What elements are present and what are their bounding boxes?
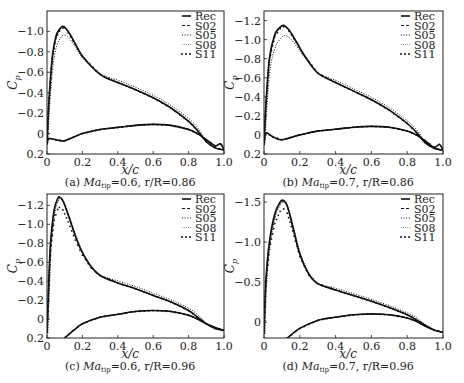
x-tick-label: 0.6 <box>144 156 162 169</box>
x-tick-label: 1.0 <box>434 156 452 169</box>
y-tick-label: 0.2 <box>27 148 45 161</box>
x-axis-label: x/c <box>121 163 139 177</box>
legend: RecS02S05S08S11 <box>181 10 217 61</box>
y-axis-label: Cp <box>223 75 239 89</box>
y-tick-label: 0 <box>37 128 44 141</box>
legend-entry-s11: S11 <box>414 231 436 244</box>
x-tick-label: 0.6 <box>363 340 381 353</box>
x-tick-label: 0 <box>44 340 51 353</box>
y-tick-label: −0.2 <box>17 294 44 307</box>
y-tick-label: 0.2 <box>27 332 45 345</box>
y-tick-label: −0.4 <box>17 275 44 288</box>
x-tick-label: 1.0 <box>434 340 452 353</box>
y-tick-label: −0.5 <box>234 276 261 289</box>
x-tick-label: 0.6 <box>144 340 162 353</box>
x-tick-label: 0.8 <box>180 340 198 353</box>
y-axis-label: Cp <box>223 259 239 273</box>
legend-entry-s11: S11 <box>195 231 217 244</box>
x-tick-label: 0.2 <box>74 340 92 353</box>
x-tick-label: 0.8 <box>398 156 416 169</box>
y-tick-label: −0.8 <box>17 46 44 59</box>
x-axis-label: x/c <box>339 163 357 177</box>
y-axis-label: Cp <box>6 259 22 273</box>
x-tick-label: 0.6 <box>363 156 381 169</box>
x-axis-label: x/c <box>121 347 139 361</box>
legend-entry-s11: S11 <box>414 48 436 61</box>
x-tick-label: 0.8 <box>180 156 198 169</box>
y-tick-label: −1.0 <box>17 218 44 231</box>
y-tick-label: −1.0 <box>234 34 261 47</box>
figure: −1.0−0.8−0.6−0.4−0.200.200.20.40.60.81.0… <box>0 0 464 383</box>
legend: RecS02S05S08S11 <box>400 10 436 61</box>
x-tick-label: 0.8 <box>398 340 416 353</box>
panel-b: −1.2−1.0−0.8−0.6−0.4−0.200.200.20.40.60.… <box>223 10 452 190</box>
panel-caption: (d) Matip=0.7, r/R=0.96 <box>283 360 414 374</box>
y-tick-label: 0 <box>254 316 261 329</box>
x-tick-label: 0.2 <box>74 156 92 169</box>
y-tick-label: 0.2 <box>244 148 262 161</box>
y-tick-label: −1.0 <box>17 25 44 38</box>
y-axis-label: Cp <box>6 75 22 89</box>
panel-c: −1.2−1.0−0.8−0.6−0.4−0.200.200.20.40.60.… <box>6 193 233 374</box>
y-tick-label: −0.4 <box>17 87 44 100</box>
x-tick-label: 1.0 <box>215 156 233 169</box>
x-axis-label: x/c <box>339 347 357 361</box>
x-tick-label: 0 <box>261 340 268 353</box>
legend-entry-s11: S11 <box>195 48 217 61</box>
x-tick-label: 0.2 <box>291 340 309 353</box>
panel-a: −1.0−0.8−0.6−0.4−0.200.200.20.40.60.81.0… <box>6 10 233 190</box>
y-tick-label: −0.8 <box>17 237 44 250</box>
x-tick-label: 0 <box>44 156 51 169</box>
y-tick-label: −0.4 <box>234 91 261 104</box>
x-tick-label: 1.0 <box>215 340 233 353</box>
x-tick-label: 0.2 <box>291 156 309 169</box>
y-tick-label: −1.2 <box>234 15 261 28</box>
y-tick-label: −1.5 <box>234 196 261 209</box>
legend: RecS02S05S08S11 <box>400 193 436 244</box>
y-tick-label: −1.2 <box>17 199 44 212</box>
panel-caption: (c) Matip=0.6, r/R=0.96 <box>65 360 195 374</box>
panel-caption: (a) Matip=0.6, r/R=0.86 <box>65 176 196 190</box>
y-tick-label: −0.8 <box>234 53 261 66</box>
y-tick-label: 0 <box>254 129 261 142</box>
y-tick-label: −1.0 <box>234 236 261 249</box>
y-tick-label: 0 <box>37 313 44 326</box>
legend: RecS02S05S08S11 <box>181 193 217 244</box>
panel-caption: (b) Matip=0.7, r/R=0.86 <box>283 176 414 190</box>
y-tick-label: −0.2 <box>234 110 261 123</box>
x-tick-label: 0 <box>261 156 268 169</box>
panel-d: −1.5−1.0−0.5000.20.40.60.81.0x/cCpRecS02… <box>223 193 452 374</box>
y-tick-label: −0.2 <box>17 107 44 120</box>
